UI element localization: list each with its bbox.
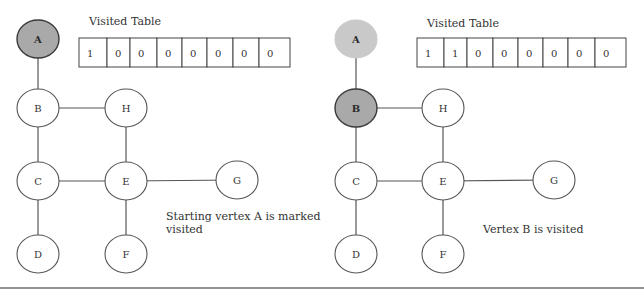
visited-cell-value: 1 (87, 48, 93, 59)
vertex-label: G (233, 175, 241, 186)
vertex-f: F (422, 235, 464, 273)
vertex-label: F (440, 249, 447, 260)
bfs-diagram: ABHCEGDFVisited Table10000000Starting ve… (0, 0, 644, 293)
diagram-panels: ABHCEGDFVisited Table10000000Starting ve… (17, 15, 626, 273)
visited-cell (259, 38, 290, 67)
vertex-e: E (105, 162, 147, 200)
visited-cell-value: 0 (215, 48, 221, 59)
panel-step2: ABHCEGDFVisited Table11000000Vertex B is… (335, 17, 626, 273)
vertex-label: A (351, 34, 360, 45)
caption-line: visited (165, 223, 203, 236)
vertex-d: D (335, 235, 377, 273)
caption-line: Vertex B is visited (482, 223, 583, 236)
vertex-label: D (352, 249, 360, 260)
panel-step1: ABHCEGDFVisited Table10000000Starting ve… (17, 15, 321, 273)
vertex-g: G (216, 161, 258, 199)
step-caption: Starting vertex A is markedvisited (165, 210, 321, 236)
vertex-h: H (105, 89, 147, 127)
step-caption: Vertex B is visited (482, 223, 583, 236)
vertex-b: B (17, 89, 59, 127)
vertex-d: D (17, 235, 59, 273)
vertex-label: A (33, 34, 42, 45)
vertex-label: B (352, 103, 360, 114)
visited-cell-value: 1 (452, 48, 458, 59)
vertex-label: G (550, 175, 558, 186)
vertex-h: H (422, 89, 464, 127)
visited-cell-value: 0 (551, 48, 557, 59)
visited-table: Visited Table11000000 (417, 17, 626, 67)
visited-cell-value: 0 (115, 48, 121, 59)
caption-line: Starting vertex A is marked (166, 210, 321, 223)
vertex-label: C (352, 176, 360, 187)
vertex-label: F (123, 249, 130, 260)
visited-cell-value: 0 (501, 48, 507, 59)
vertex-label: D (34, 249, 42, 260)
vertex-a: A (17, 20, 59, 58)
vertex-label: H (439, 103, 448, 114)
visited-table: Visited Table10000000 (79, 15, 290, 67)
vertex-f: F (105, 235, 147, 273)
vertex-label: C (34, 176, 42, 187)
visited-cell-value: 0 (475, 48, 481, 59)
vertex-b: B (335, 89, 377, 127)
edges (356, 39, 554, 254)
visited-cell-value: 0 (165, 48, 171, 59)
vertex-e: E (422, 162, 464, 200)
vertex-g: G (533, 161, 575, 199)
vertex-label: E (122, 176, 129, 187)
visited-cell-value: 0 (241, 48, 247, 59)
vertex-c: C (17, 162, 59, 200)
visited-cell (595, 38, 626, 67)
vertex-label: H (122, 103, 131, 114)
visited-cell-value: 0 (526, 48, 532, 59)
vertex-label: E (439, 176, 446, 187)
visited-cell-value: 0 (267, 48, 273, 59)
visited-cell-value: 0 (603, 48, 609, 59)
visited-cell-value: 0 (190, 48, 196, 59)
visited-table-title: Visited Table (88, 15, 161, 28)
visited-cell-value: 1 (425, 48, 431, 59)
vertex-c: C (335, 162, 377, 200)
visited-cell-value: 0 (576, 48, 582, 59)
vertex-a: A (335, 20, 377, 58)
visited-table-title: Visited Table (426, 17, 499, 30)
vertex-label: B (34, 103, 41, 114)
visited-cell-value: 0 (138, 48, 144, 59)
